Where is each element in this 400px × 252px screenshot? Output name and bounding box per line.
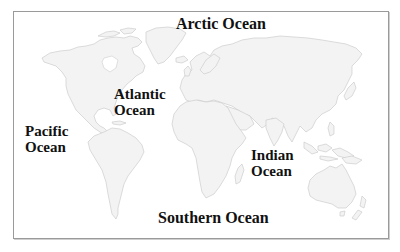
tasmania [340,211,345,216]
label-atlantic-ocean: Atlantic Ocean [114,86,166,118]
atlantic-line2: Ocean [114,102,166,118]
philippines [328,122,334,136]
label-pacific-ocean: Pacific Ocean [25,123,68,155]
label-southern-ocean: Southern Ocean [158,210,269,226]
indian-line1: Indian [251,147,294,163]
iceland [176,56,188,63]
caribbean-islands [112,121,126,125]
pacific-line2: Ocean [25,139,68,155]
label-arctic-ocean: Arctic Ocean [176,16,266,32]
madagascar [235,164,244,184]
south-america [88,128,144,219]
atlantic-line1: Atlantic [114,86,166,102]
new-guinea [342,156,362,164]
indian-line2: Ocean [251,163,294,179]
india [266,118,284,146]
arctic-ocean-text: Arctic Ocean [176,16,266,32]
new-zealand [352,196,366,220]
arctic-islands [98,28,136,37]
australia [308,164,356,208]
pacific-line1: Pacific [25,123,68,139]
label-indian-ocean: Indian Ocean [251,147,294,179]
southern-ocean-text: Southern Ocean [158,210,269,226]
